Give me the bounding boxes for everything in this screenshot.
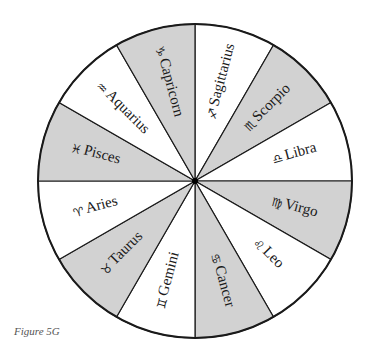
wheel-hub (192, 178, 198, 184)
zodiac-wheel: ♐ Sagittarius♏ Scorpio♎ Libra♍ Virgo♌ Le… (0, 0, 370, 363)
figure-caption: Figure 5G (14, 325, 60, 337)
